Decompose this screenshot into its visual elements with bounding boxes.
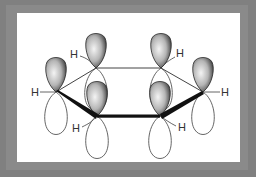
lower-lobes	[45, 68, 215, 159]
lower-lobe-c3	[45, 92, 68, 135]
upper-lobe-c2	[151, 34, 172, 69]
h-label-c2: H	[176, 47, 184, 59]
h-label-c1: H	[70, 48, 78, 60]
upper-lobe-c4	[193, 58, 214, 93]
h-label-c4: H	[221, 86, 229, 98]
upper-lobes	[46, 34, 214, 117]
back-bonds	[56, 68, 203, 92]
h-label-c6: H	[178, 121, 186, 133]
h-label-c3: H	[31, 86, 39, 98]
lower-lobe-c6	[149, 116, 172, 159]
upper-lobe-c3	[46, 58, 67, 93]
h-label-c5: H	[72, 122, 80, 134]
upper-lobe-c1	[86, 34, 107, 69]
bond-c5-c6	[97, 115, 160, 118]
front-bonds	[56, 90, 204, 119]
orbital-diagram: H H H H H H	[0, 0, 256, 177]
